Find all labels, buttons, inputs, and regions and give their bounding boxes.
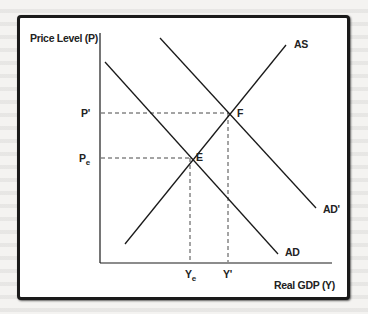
point-f-label: F — [237, 107, 244, 119]
as-label: AS — [294, 38, 308, 50]
point-e-label: E — [196, 151, 203, 163]
ad-label: AD — [285, 246, 300, 258]
ad-prime-label: AD' — [323, 203, 340, 215]
ad-as-chart: Price Level (P) Real GDP (Y) AS AD AD' E… — [0, 0, 368, 314]
ye-label: Ye — [185, 268, 197, 283]
y-prime-label: Y' — [223, 268, 232, 280]
y-axis-label: Price Level (P) — [30, 32, 98, 44]
as-curve — [125, 45, 286, 244]
p-prime-label: P' — [81, 107, 90, 119]
x-axis-label: Real GDP (Y) — [274, 279, 335, 291]
ad-prime-curve — [160, 38, 316, 208]
pe-label: Pe — [79, 152, 91, 167]
